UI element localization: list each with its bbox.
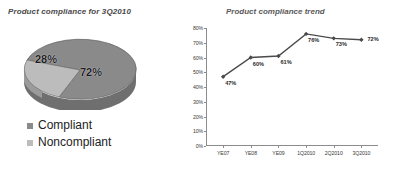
x-axis-tick-mark [334,146,335,148]
x-axis-tick-label: YE09 [272,150,284,156]
x-axis-tick-mark [223,146,224,148]
data-point-label: 60% [253,61,264,67]
x-axis-tick-label: 3Q2010 [352,150,370,156]
pie-label-noncompliant: 28% [35,53,57,65]
y-axis-tick-mark [204,72,206,73]
pie-legend: Compliant Noncompliant [27,117,167,151]
x-axis-tick-label: 1Q2010 [297,150,315,156]
pie-label-compliant: 72% [80,66,102,78]
y-axis-tick-mark [204,131,206,132]
x-axis-tick-label: YE07 [217,150,229,156]
legend-item-compliant: Compliant [27,117,167,134]
y-axis-tick-label: 30% [193,99,203,105]
x-axis-tick-mark [361,146,362,148]
pie-chart-panel: Product compliance for 3Q2010 28% 72% Co… [0,0,180,169]
line-chart-plot-area: 0%10%20%30%40%50%60%70%80%YE07YE08YE091Q… [206,28,378,146]
legend-label-noncompliant: Noncompliant [38,136,111,149]
y-axis-tick-label: 20% [193,114,203,120]
y-axis-tick-mark [204,87,206,88]
x-axis-tick-label: 2Q2010 [325,150,343,156]
legend-swatch-compliant-icon [27,123,33,129]
y-axis-tick-label: 50% [193,69,203,75]
y-axis-tick-label: 80% [193,25,203,31]
y-axis-tick-mark [204,146,206,147]
legend-item-noncompliant: Noncompliant [27,134,167,151]
line-series-path [223,34,361,77]
line-series-svg [206,28,378,146]
pie-chart-graphic: 28% 72% [18,30,143,110]
y-axis-tick-mark [204,117,206,118]
data-point-label: 76% [308,37,319,43]
y-axis-tick-label: 10% [193,128,203,134]
data-point-marker [332,36,336,40]
legend-swatch-noncompliant-icon [27,140,33,146]
line-chart-title: Product compliance trend [226,7,325,16]
y-axis-tick-label: 70% [193,40,203,46]
y-axis-tick-label: 60% [193,55,203,61]
y-axis-tick-label: 40% [193,84,203,90]
line-chart-panel: Product compliance trend 0%10%20%30%40%5… [180,0,396,169]
data-point-label: 72% [367,36,378,42]
chart-page: Product compliance for 3Q2010 28% 72% Co… [0,0,396,169]
y-axis-tick-mark [204,43,206,44]
data-point-label: 61% [280,59,291,65]
x-axis-tick-mark [306,146,307,148]
y-axis-tick-mark [204,102,206,103]
x-axis-tick-mark [278,146,279,148]
y-axis-tick-mark [204,58,206,59]
data-point-marker [359,38,363,42]
data-point-label: 73% [336,41,347,47]
legend-label-compliant: Compliant [38,119,92,132]
x-axis-tick-mark [251,146,252,148]
y-axis-tick-label: 0% [196,143,203,149]
y-axis-tick-mark [204,28,206,29]
x-axis-tick-label: YE08 [245,150,257,156]
pie-chart-title: Product compliance for 3Q2010 [8,7,131,16]
data-point-label: 47% [225,80,236,86]
